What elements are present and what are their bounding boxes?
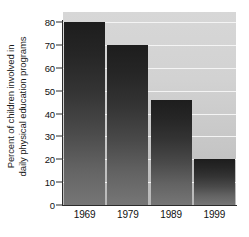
x-axis-tick-labels: 1969197919891999 <box>63 209 236 229</box>
x-axis-tick-label: 1969 <box>74 209 96 220</box>
y-axis-tick-label: 30 <box>33 131 55 142</box>
bar <box>151 100 192 205</box>
bar <box>107 45 148 205</box>
plot-area <box>63 12 236 205</box>
y-axis-title-line-1: Percent of children involved in <box>6 36 18 176</box>
x-axis-tick-label: 1979 <box>117 209 139 220</box>
x-axis-tick-label: 1989 <box>160 209 182 220</box>
y-axis-tick-label: 50 <box>33 85 55 96</box>
x-axis-tick-label: 1999 <box>203 209 225 220</box>
y-axis-tick-label: 10 <box>33 177 55 188</box>
bar <box>64 22 105 205</box>
y-axis-tick-label: 80 <box>33 17 55 28</box>
y-axis-title-line-2: daily physical education programs <box>17 36 29 176</box>
bar-chart-figure: Percent of children involved in daily ph… <box>0 0 249 237</box>
y-axis-tick-label: 20 <box>33 154 55 165</box>
y-axis-tick-label: 40 <box>33 108 55 119</box>
x-axis-line <box>62 205 237 206</box>
y-axis-title: Percent of children involved in daily ph… <box>0 0 34 212</box>
y-axis-tick-label: 70 <box>33 39 55 50</box>
y-axis-tick-labels: 01020304050607080 <box>33 0 55 212</box>
bar <box>194 159 235 205</box>
y-axis-tick-label: 0 <box>33 200 55 211</box>
y-axis-tick-label: 60 <box>33 62 55 73</box>
